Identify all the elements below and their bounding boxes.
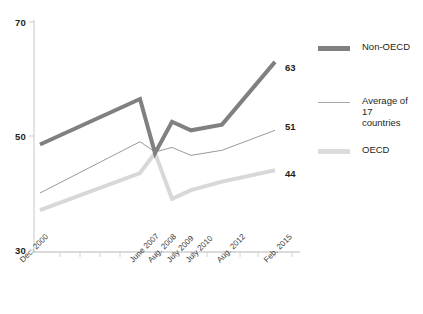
legend-label-average-17: Average of 17 countries	[362, 95, 420, 128]
series-layer	[40, 62, 275, 210]
legend-item-average-17: Average of 17 countries	[318, 95, 420, 128]
legend-item-non-oecd: Non-OECD	[318, 41, 420, 52]
y-axis-ticks	[29, 22, 34, 250]
end-label-non-oecd: 63	[285, 62, 296, 73]
legend-swatch-oecd-icon	[318, 149, 350, 154]
series-line-non-oecd	[40, 62, 275, 153]
legend-item-oecd: OECD	[318, 144, 420, 155]
legend-label-oecd: OECD	[362, 144, 389, 155]
legend-label-non-oecd: Non-OECD	[362, 41, 410, 52]
legend-swatch-average-17-icon	[318, 102, 350, 103]
line-chart: 70 50 30 Dec. 2000 June 2007 Aug. 2008 J…	[0, 0, 423, 314]
end-label-oecd: 44	[285, 168, 296, 179]
legend-swatch-non-oecd-icon	[318, 46, 350, 51]
series-line-oecd	[40, 153, 275, 210]
end-label-average-17: 51	[285, 121, 296, 132]
